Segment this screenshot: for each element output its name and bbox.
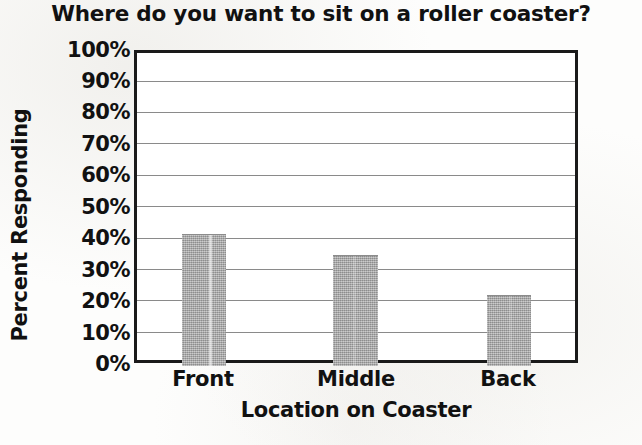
y-axis-title: Percent Responding — [0, 0, 30, 95]
y-tick-label-100: 100% — [44, 38, 130, 62]
y-axis-title-label: Percent Responding — [8, 95, 32, 355]
bar-middle[interactable] — [333, 255, 378, 366]
x-tick-label-middle: Middle — [276, 367, 436, 391]
bar-front-scan-streak — [209, 235, 212, 366]
y-tick-label-30: 30% — [44, 258, 130, 282]
x-tick-label-front: Front — [123, 367, 283, 391]
y-axis-tick-labels: 100% 90% 80% 70% 60% 50% 40% 30% 20% 10%… — [44, 0, 130, 445]
bar-front[interactable] — [182, 234, 226, 366]
y-tick-label-40: 40% — [44, 226, 130, 250]
bars-layer — [137, 53, 581, 366]
bar-middle-scan-streak — [353, 256, 356, 366]
y-tick-label-50: 50% — [44, 195, 130, 219]
plot-area — [134, 50, 578, 363]
y-tick-label-0: 0% — [44, 352, 130, 376]
chart-screenshot: Where do you want to sit on a roller coa… — [0, 0, 642, 445]
y-tick-label-80: 80% — [44, 100, 130, 124]
y-tick-label-60: 60% — [44, 163, 130, 187]
y-tick-label-10: 10% — [44, 321, 130, 345]
x-axis-title: Location on Coaster — [134, 398, 578, 422]
y-tick-label-90: 90% — [44, 69, 130, 93]
x-tick-label-back: Back — [428, 367, 588, 391]
bar-back[interactable] — [487, 295, 531, 366]
bar-back-scan-streak — [509, 296, 512, 366]
y-tick-label-70: 70% — [44, 132, 130, 156]
y-tick-label-20: 20% — [44, 289, 130, 313]
